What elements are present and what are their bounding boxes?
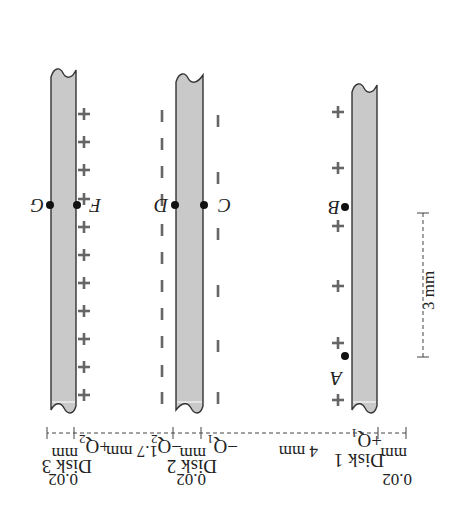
gap-2-3-label: 1.7 mm (106, 442, 158, 461)
disk-2-body (176, 74, 203, 413)
point-c (200, 201, 208, 209)
gap-1-2-label: 4 mm (279, 442, 318, 461)
disk-1-thickness-value: 0.02 (382, 470, 412, 489)
disk-2-charge-left-label: −Q1 (207, 432, 238, 457)
disk-1 (332, 84, 377, 413)
disk-3-plus-charges (78, 108, 90, 401)
disk-2 (162, 74, 218, 413)
disk-2-thickness-value: 0.02 (176, 470, 206, 489)
point-b-label: B (328, 197, 340, 218)
point-f-label: F (89, 195, 102, 216)
point-d-label: D (154, 195, 169, 216)
disk-3-body (51, 69, 76, 413)
disk-3 (51, 69, 90, 413)
point-d (171, 201, 179, 209)
vertical-ab-label: 3 mm (419, 271, 438, 310)
point-c-label: C (218, 195, 231, 216)
point-g (46, 201, 54, 209)
disk-3-thickness-unit: mm (52, 444, 78, 463)
disk-1-charge-label: +Q1 (351, 426, 382, 451)
disk-3-charge-label: +Q2 (79, 432, 110, 457)
point-a-label: A (330, 368, 344, 389)
disk-1-thickness-unit: mm (381, 444, 407, 463)
point-g-label: G (30, 195, 44, 216)
point-f (73, 201, 81, 209)
disk-3-thickness-value: 0.02 (48, 470, 78, 489)
point-a (341, 352, 349, 360)
three-disk-capacitor-diagram: A B C D F G +Q1 Disk 1 −Q1 −Q2 Disk 2 +Q… (0, 0, 462, 532)
disk-1-label: Disk 1 (334, 450, 384, 471)
disk-2-thickness-unit: mm (180, 444, 206, 463)
disk-1-plus-charges (332, 106, 344, 406)
disk-1-body (352, 84, 377, 413)
point-b (341, 203, 349, 211)
